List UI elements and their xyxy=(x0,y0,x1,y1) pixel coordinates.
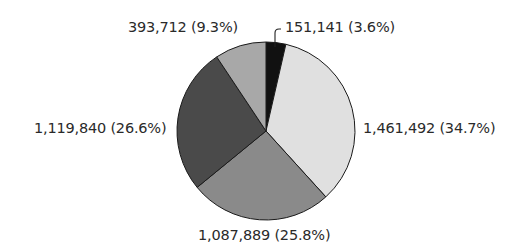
slice-label-light-gray: 1,461,492 (34.7%) xyxy=(363,120,495,136)
slice-label-medium-gray: 1,087,889 (25.8%) xyxy=(198,227,330,243)
pie-slices xyxy=(177,42,355,220)
slice-label-medium-light-gray: 393,712 (9.3%) xyxy=(128,19,238,35)
slice-label-black: 151,141 (3.6%) xyxy=(285,19,395,35)
pie-chart: 151,141 (3.6%) 1,461,492 (34.7%) 1,087,8… xyxy=(0,0,521,250)
slice-label-dark-gray: 1,119,840 (26.6%) xyxy=(34,120,166,136)
